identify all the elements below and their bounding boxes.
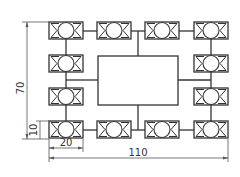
module-top-3 bbox=[145, 22, 179, 39]
module-top-4 bbox=[194, 22, 228, 39]
module-bottom-4 bbox=[194, 121, 228, 138]
module-right-1 bbox=[194, 55, 228, 72]
dimension-module-height-label: 10 bbox=[28, 124, 39, 137]
module-right-2 bbox=[194, 88, 228, 105]
module-bottom-2 bbox=[97, 121, 131, 138]
module-top-2 bbox=[97, 22, 131, 39]
module-bottom-1 bbox=[49, 121, 83, 138]
module-top-1 bbox=[49, 22, 83, 39]
technical-drawing: 70 10 20 110 bbox=[0, 0, 240, 177]
module-left-1 bbox=[49, 55, 83, 72]
module-bottom-3 bbox=[145, 121, 179, 138]
center-block bbox=[98, 56, 178, 105]
dimension-height-label: 70 bbox=[15, 82, 26, 95]
dimension-module-width-label: 20 bbox=[60, 137, 73, 148]
module-left-2 bbox=[49, 88, 83, 105]
dimension-width-label: 110 bbox=[128, 147, 147, 158]
